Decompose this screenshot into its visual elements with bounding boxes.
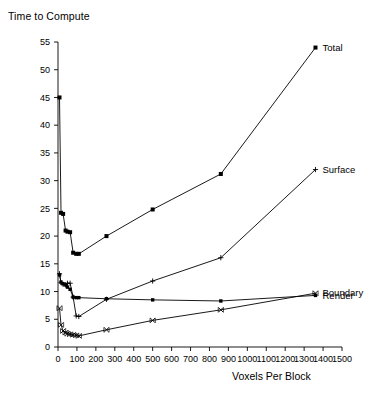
svg-text:700: 700 (183, 354, 198, 364)
series-label-surface: Surface (322, 164, 355, 175)
svg-text:50: 50 (40, 65, 50, 75)
series-label-total: Total (322, 42, 342, 53)
svg-text:40: 40 (40, 120, 50, 130)
svg-text:1500: 1500 (332, 354, 352, 364)
svg-text:600: 600 (164, 354, 179, 364)
series-label-render: Render (322, 290, 353, 301)
svg-text:20: 20 (40, 231, 50, 241)
chart-container: Time to Compute Voxels Per Block 0510152… (0, 0, 390, 397)
svg-text:1400: 1400 (313, 354, 333, 364)
svg-text:55: 55 (40, 37, 50, 47)
svg-text:200: 200 (88, 354, 103, 364)
svg-text:1100: 1100 (257, 354, 276, 364)
series-total (58, 46, 318, 256)
series-labels-group: TotalSurfaceBoundaryRender (322, 42, 363, 301)
svg-text:5: 5 (45, 314, 50, 324)
svg-text:25: 25 (40, 204, 50, 214)
svg-text:900: 900 (221, 354, 236, 364)
svg-text:15: 15 (40, 259, 50, 269)
svg-text:45: 45 (40, 93, 50, 103)
svg-text:100: 100 (69, 354, 84, 364)
y-axis: 0510152025303540455055 (40, 37, 58, 352)
svg-text:400: 400 (126, 354, 141, 364)
data-series-group (57, 46, 318, 339)
svg-text:1000: 1000 (237, 354, 257, 364)
svg-text:1300: 1300 (294, 354, 314, 364)
svg-text:1200: 1200 (275, 354, 295, 364)
svg-text:10: 10 (40, 287, 50, 297)
svg-text:300: 300 (107, 354, 122, 364)
plot-area: 0510152025303540455055 01002003004005006… (0, 0, 390, 397)
series-render (58, 273, 317, 302)
svg-text:800: 800 (202, 354, 217, 364)
svg-text:0: 0 (55, 354, 60, 364)
svg-text:0: 0 (45, 342, 50, 352)
x-axis: 0100200300400500600700800900100011001200… (55, 347, 352, 364)
svg-text:35: 35 (40, 148, 50, 158)
svg-text:30: 30 (40, 176, 50, 186)
svg-text:500: 500 (145, 354, 160, 364)
